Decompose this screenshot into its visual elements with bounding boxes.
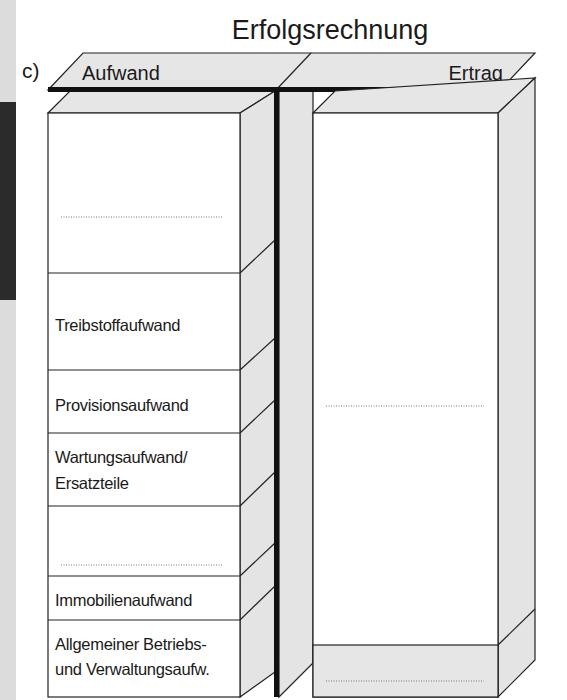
part-label: c) — [22, 59, 40, 82]
t-account-diagram: Erfolgsrechnung c) Aufwand Ertrag Treibs… — [0, 0, 567, 700]
ertrag-side-face — [498, 78, 535, 697]
header-aufwand: Aufwand — [82, 62, 160, 84]
aufwand-top-face — [48, 91, 275, 113]
aufwand-row-immobilien: Immobilienaufwand — [55, 591, 192, 609]
ertrag-front-face — [313, 113, 498, 697]
aufwand-row-treibstoff: Treibstoffaufwand — [55, 316, 180, 334]
chapter-tab — [0, 102, 16, 300]
diagram-title: Erfolgsrechnung — [232, 15, 429, 45]
aufwand-row-allgemein-line1: Allgemeiner Betriebs- — [55, 635, 206, 653]
aufwand-row-wartung-line1: Wartungsaufwand/ — [55, 448, 188, 466]
ertrag-inner-side-face — [279, 91, 313, 697]
ertrag-bottom-row — [313, 645, 498, 697]
aufwand-row-provisions: Provisionsaufwand — [55, 396, 189, 414]
aufwand-row-allgemein-line2: und Verwaltungsaufw. — [55, 660, 210, 678]
t-account-vertical-line — [274, 88, 279, 697]
aufwand-side-face — [240, 91, 275, 697]
aufwand-row-wartung-line2: Ersatzteile — [55, 474, 129, 492]
